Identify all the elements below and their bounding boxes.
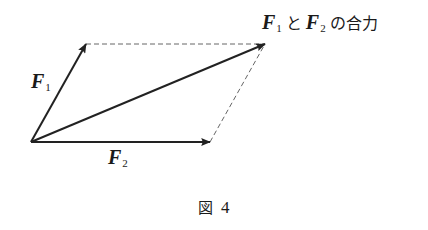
resultant-f2-subscript: 2	[320, 22, 326, 34]
resultant-f2-symbol: F	[306, 11, 319, 33]
vector-f2-label: F2	[108, 146, 128, 169]
resultant-suffix: の合力	[330, 14, 378, 33]
f2-subscript: 2	[122, 157, 128, 169]
resultant-connector: と	[286, 14, 302, 33]
vector-f1-label: F1	[31, 70, 51, 93]
resultant-f1-subscript: 1	[276, 22, 282, 34]
resultant-label: F1 と F2 の合力	[262, 10, 378, 34]
caption-prefix: 図	[198, 199, 213, 217]
dashed-line-right	[210, 44, 265, 142]
vector-f1-arrow	[31, 44, 86, 142]
caption-number: 4	[221, 198, 230, 217]
resultant-vector-arrow	[31, 44, 265, 142]
f1-subscript: 1	[45, 81, 51, 93]
resultant-f1-symbol: F	[262, 11, 275, 33]
figure-caption: 図4	[198, 196, 230, 218]
f2-symbol: F	[108, 146, 121, 168]
f1-symbol: F	[31, 70, 44, 92]
